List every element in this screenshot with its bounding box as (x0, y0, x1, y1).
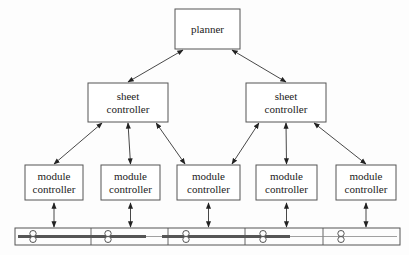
node-label: controller (345, 183, 388, 195)
node-label: controller (107, 103, 150, 115)
node-label: controller (265, 103, 308, 115)
module-2-box: modulecontroller (101, 165, 160, 200)
edge-arrow (128, 123, 131, 164)
node-label: module (114, 170, 147, 182)
node-label: controller (187, 183, 230, 195)
edge-arrow (286, 123, 287, 164)
edge-arrow (128, 50, 183, 82)
node-label: planner (191, 23, 224, 35)
nodes: plannersheetcontrollersheetcontrollermod… (25, 9, 396, 200)
node-label: module (270, 170, 303, 182)
planner-box: planner (175, 9, 240, 49)
paper-path (15, 228, 400, 245)
module-4-box: modulecontroller (256, 165, 317, 200)
node-label: module (38, 170, 71, 182)
node-label: controller (109, 183, 152, 195)
node-label: controller (265, 183, 308, 195)
edge-arrow (314, 123, 366, 164)
node-label: controller (33, 183, 76, 195)
node-label: module (192, 170, 225, 182)
diagram-canvas: plannersheetcontrollersheetcontrollermod… (0, 0, 409, 255)
edge-arrow (232, 123, 259, 164)
node-label: sheet (275, 90, 298, 102)
sheet-left-box: sheetcontroller (88, 83, 168, 122)
module-3-box: modulecontroller (177, 165, 240, 200)
edge-arrow (54, 123, 102, 164)
module-5-box: modulecontroller (336, 165, 396, 200)
edge-arrow (232, 50, 286, 82)
sheet-right-box: sheetcontroller (246, 83, 326, 122)
control-hierarchy-diagram: plannersheetcontrollersheetcontrollermod… (0, 0, 409, 255)
edge-arrow (156, 123, 185, 164)
node-label: sheet (117, 90, 140, 102)
node-label: module (350, 170, 383, 182)
module-1-box: modulecontroller (25, 165, 83, 200)
